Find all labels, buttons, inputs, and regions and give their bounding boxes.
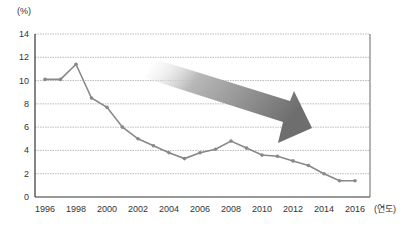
x-tick-label: 2016 <box>345 204 365 214</box>
data-point <box>291 159 295 163</box>
data-point <box>152 144 156 148</box>
x-tick-label: 2008 <box>221 204 241 214</box>
data-point <box>229 139 233 143</box>
y-tick-label: 4 <box>24 145 29 155</box>
x-tick-label: 2004 <box>159 204 179 214</box>
data-point <box>198 151 202 155</box>
data-point <box>167 151 171 155</box>
data-point <box>214 147 218 151</box>
data-point <box>90 96 94 100</box>
x-tick-label: 2012 <box>283 204 303 214</box>
x-tick-label: 2010 <box>252 204 272 214</box>
axes: 0246810121419961998200020022004200620082… <box>19 29 370 214</box>
y-tick-label: 2 <box>24 169 29 179</box>
data-point <box>121 125 125 129</box>
x-tick-label: 2002 <box>128 204 148 214</box>
y-tick-label: 10 <box>19 76 29 86</box>
data-point <box>260 153 264 157</box>
data-point <box>307 164 311 168</box>
data-point <box>136 137 140 141</box>
x-tick-label: 1998 <box>66 204 86 214</box>
y-tick-label: 0 <box>24 192 29 202</box>
trend-arrow <box>145 58 312 143</box>
data-point <box>276 154 280 158</box>
data-point <box>43 78 47 82</box>
y-tick-label: 12 <box>19 52 29 62</box>
x-tick-label: 2006 <box>190 204 210 214</box>
x-tick-label: 2000 <box>97 204 117 214</box>
x-tick-label: 1996 <box>35 204 55 214</box>
y-tick-label: 6 <box>24 122 29 132</box>
line-chart: 0246810121419961998200020022004200620082… <box>0 0 413 228</box>
x-axis-label: (연도) <box>374 204 396 214</box>
data-point <box>353 179 357 183</box>
data-point <box>105 106 109 110</box>
data-point <box>183 157 187 161</box>
x-tick-label: 2014 <box>314 204 334 214</box>
y-tick-label: 14 <box>19 29 29 39</box>
data-point <box>338 179 342 183</box>
data-point <box>59 78 63 82</box>
data-point <box>74 62 78 66</box>
y-axis-label: (%) <box>17 6 31 16</box>
y-tick-label: 8 <box>24 99 29 109</box>
data-point <box>322 172 326 176</box>
data-point <box>245 146 249 150</box>
